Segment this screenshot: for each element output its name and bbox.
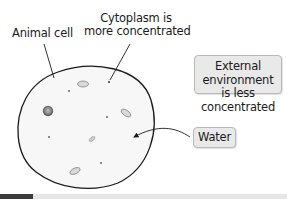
progress-bar: [0, 194, 287, 199]
particle-dot: [48, 136, 50, 138]
progress-bar-fill: [0, 194, 33, 199]
particle-dot: [108, 81, 110, 83]
external-environment-box: External environment is less concentrate…: [194, 55, 282, 94]
water-label-box: Water: [193, 127, 236, 148]
particle-dot: [68, 90, 70, 92]
animal-cell-label: Animal cell: [12, 27, 73, 40]
cytoplasm-label: Cytoplasm is more concentrated: [84, 12, 188, 38]
external-environment-line2: is less concentrated: [195, 87, 281, 114]
nucleus-icon: [43, 106, 53, 116]
animal-cell-pointer: [44, 44, 54, 78]
particle-dot: [100, 162, 102, 164]
organelle-icon: [78, 81, 89, 87]
particle-dot: [106, 116, 108, 118]
cytoplasm-label-line2: more concentrated: [84, 25, 188, 38]
water-label: Water: [198, 130, 231, 144]
external-environment-line1: External environment: [195, 60, 281, 87]
